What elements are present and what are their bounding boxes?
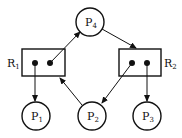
r1-label: R1	[7, 57, 20, 71]
resource-r1: R1	[7, 49, 65, 76]
process-p2: P2	[78, 102, 106, 130]
p1-label: P1	[31, 110, 43, 124]
p2-label: P2	[87, 110, 99, 124]
process-p3: P3	[133, 102, 161, 130]
edge-p4-to-r2	[102, 29, 136, 48]
r2-label: R2	[164, 57, 177, 71]
p4-label: P4	[85, 16, 97, 30]
process-p4: P4	[76, 8, 104, 36]
edge-r2-to-p2	[102, 63, 132, 103]
resource-r2: R2	[119, 49, 177, 76]
resource-allocation-graph: R1 R2 P4 P1 P2 P3	[0, 0, 182, 138]
p3-label: P3	[142, 110, 154, 124]
edge-p2-to-r1	[60, 78, 82, 105]
process-p1: P1	[22, 102, 50, 130]
